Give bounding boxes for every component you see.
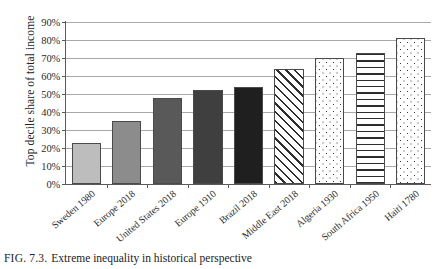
bar (153, 98, 182, 184)
y-axis-tick-mark (62, 76, 66, 77)
gridline (66, 40, 431, 41)
bar (396, 38, 425, 184)
bar (356, 53, 385, 184)
figure-caption: FIG. 7.3.Extreme inequality in historica… (4, 252, 252, 264)
x-axis-label: Europe 1910 (173, 188, 219, 229)
x-axis-tick-mark (350, 184, 351, 188)
x-axis-tick-mark (309, 184, 310, 188)
y-axis-tick-label: 20% (41, 143, 60, 154)
y-axis-tick-mark (62, 112, 66, 113)
y-axis-tick-mark (62, 94, 66, 95)
y-axis-line (65, 21, 66, 185)
y-axis-tick-label: 90% (41, 17, 60, 28)
y-axis-tick-label: 10% (41, 161, 60, 172)
x-axis-tick-mark (269, 184, 270, 188)
y-axis-tick-mark (62, 40, 66, 41)
y-axis-tick-mark (62, 22, 66, 23)
bar (193, 90, 222, 184)
y-axis-tick-mark (62, 166, 66, 167)
x-axis-tick-mark (228, 184, 229, 188)
y-axis-title: Top decile share of total income (24, 6, 36, 176)
y-axis-tick-label: 0% (46, 179, 60, 190)
x-axis-label: Haiti 1780 (382, 188, 421, 223)
y-axis-tick-label: 70% (41, 53, 60, 64)
x-axis-tick-mark (147, 184, 148, 188)
y-axis-tick-label: 60% (41, 71, 60, 82)
x-axis-tick-mark (107, 184, 108, 188)
gridline (66, 22, 431, 23)
y-axis-tick-label: 30% (41, 125, 60, 136)
bar (274, 69, 303, 184)
x-axis-tick-mark (188, 184, 189, 188)
y-axis-tick-mark (62, 184, 66, 185)
x-axis-line (65, 184, 431, 185)
figure-number: FIG. 7.3. (4, 252, 47, 264)
x-axis-tick-mark (390, 184, 391, 188)
y-axis-tick-mark (62, 58, 66, 59)
bar (72, 143, 101, 184)
y-axis-tick-mark (62, 148, 66, 149)
figure-container: Top decile share of total income 0%10%20… (0, 0, 442, 269)
x-axis-label: Sweden 1980 (49, 188, 97, 231)
bar (234, 87, 263, 184)
bar (315, 58, 344, 184)
y-axis-tick-mark (62, 130, 66, 131)
plot-area: 0%10%20%30%40%50%60%70%80%90% (66, 22, 431, 184)
bar (112, 121, 141, 184)
y-axis-tick-label: 50% (41, 89, 60, 100)
figure-caption-text: Extreme inequality in historical perspec… (51, 252, 252, 264)
y-axis-tick-label: 40% (41, 107, 60, 118)
y-axis-tick-label: 80% (41, 35, 60, 46)
